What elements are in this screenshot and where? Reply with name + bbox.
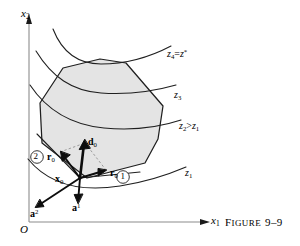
vector-x0-sub: 0	[60, 178, 63, 185]
vector-label-a2: a2	[30, 209, 38, 219]
vector-label-d0: d0	[88, 137, 97, 148]
x-axis-arrowhead	[200, 219, 210, 225]
diagram-canvas	[0, 0, 300, 246]
contour-z3-sub: 3	[178, 94, 181, 101]
vector-a1-shaft	[79, 178, 81, 196]
vector-label-r0-upper: r0	[47, 152, 55, 163]
contour-z4-curve	[53, 29, 171, 64]
vector-label-x0: x0	[55, 174, 63, 185]
contour-label-z4: z4=z*	[167, 49, 187, 61]
vector-r0-upper-sub: 0	[51, 156, 54, 163]
vector-label-a1: a1	[72, 203, 80, 213]
y-axis-label-sub: 2	[26, 12, 30, 21]
figure-9-9: x2 x1 O z4=z* z3 z2>z1 z1 2 1 d0 r0 r0 x…	[0, 0, 300, 246]
point-x0-dot	[78, 176, 81, 179]
region-marker-1-label: 1	[121, 172, 126, 181]
contour-z4-star: *	[184, 48, 187, 55]
contour-label-z2: z2>z1	[179, 121, 199, 132]
region-marker-2-label: 2	[34, 152, 39, 161]
contour-z2-sub2: 1	[196, 125, 199, 132]
x-axis-label-sub: 1	[216, 219, 220, 228]
vector-a2-sup: 2	[35, 208, 38, 215]
vector-r0-lower-sub: 0	[114, 172, 117, 179]
contour-label-z1: z1	[185, 168, 192, 179]
origin-label: O	[20, 224, 28, 235]
figure-caption-number: 9–9	[265, 216, 283, 228]
contour-label-z3: z3	[174, 90, 181, 101]
vector-d0-sub: 0	[94, 141, 97, 148]
vector-label-r0-lower: r0	[110, 168, 118, 179]
y-axis-label: x2	[21, 8, 30, 20]
figure-caption: FIGURE9–9	[225, 212, 283, 230]
x-axis-label: x1	[211, 215, 220, 227]
vector-a1-sup: 1	[77, 202, 80, 209]
vector-a2-arrowhead	[36, 200, 45, 208]
figure-caption-word: IGURE	[232, 218, 262, 228]
contour-z1-sub: 1	[189, 172, 192, 179]
